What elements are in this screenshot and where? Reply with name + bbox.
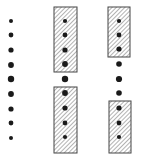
dot-column-diagram bbox=[0, 0, 144, 165]
column-right-dot bbox=[117, 135, 121, 139]
column-right-dot bbox=[116, 46, 121, 51]
column-right-dot bbox=[116, 76, 122, 82]
column-right-dot bbox=[116, 61, 122, 67]
column-middle-dot bbox=[63, 33, 68, 38]
column-middle-dot bbox=[63, 121, 68, 126]
column-middle-dot bbox=[63, 19, 67, 23]
column-middle-dot bbox=[62, 61, 68, 67]
column-left-dot bbox=[8, 62, 14, 68]
column-left-dot bbox=[9, 136, 13, 140]
column-left-dot bbox=[8, 47, 13, 52]
column-middle-dot bbox=[63, 135, 67, 139]
column-left-dot bbox=[9, 33, 14, 38]
column-left-dot bbox=[8, 91, 14, 97]
column-middle-dot bbox=[62, 90, 68, 96]
column-left-dot bbox=[8, 106, 13, 111]
column-left-dot bbox=[9, 19, 13, 23]
column-left-dot bbox=[8, 76, 14, 82]
column-right-dot bbox=[117, 121, 122, 126]
column-middle-hatched-box-bottom bbox=[54, 87, 77, 153]
column-right-dot bbox=[117, 19, 121, 23]
column-left-dot bbox=[9, 121, 14, 126]
column-middle-dot bbox=[62, 76, 68, 82]
column-middle-dot bbox=[62, 47, 67, 52]
column-right-dot bbox=[116, 90, 122, 96]
dots bbox=[8, 19, 122, 140]
column-right-dot bbox=[117, 33, 122, 38]
column-middle-dot bbox=[62, 105, 67, 110]
column-right-dot bbox=[116, 105, 121, 110]
